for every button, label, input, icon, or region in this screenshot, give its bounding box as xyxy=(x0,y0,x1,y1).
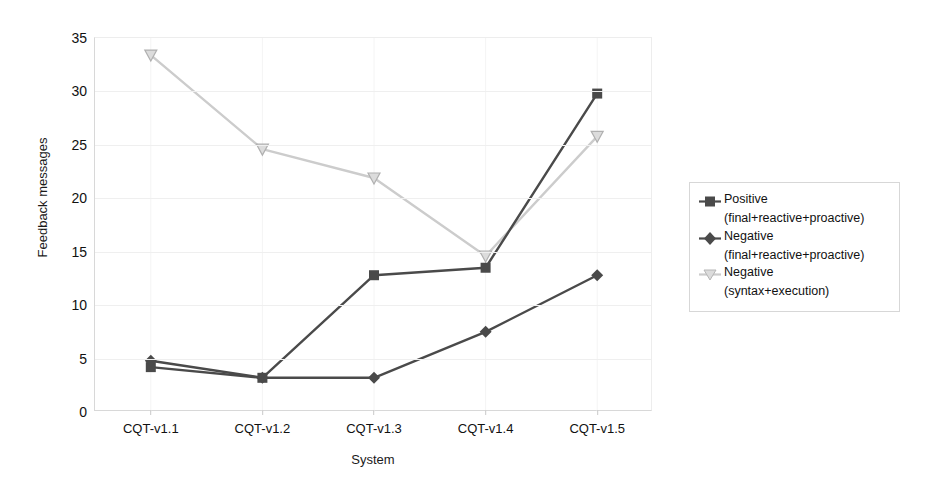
gridline xyxy=(95,305,651,306)
legend-label-negative-syntax: Negative xyxy=(724,265,773,281)
data-point-marker[interactable] xyxy=(591,269,603,281)
y-tick-label: 5 xyxy=(79,351,87,367)
data-point-marker[interactable] xyxy=(480,326,492,338)
legend-label-negative-syntax-sub: (syntax+execution) xyxy=(724,284,891,300)
x-tick-mark xyxy=(374,410,375,415)
y-tick-label: 35 xyxy=(71,30,87,46)
data-point-marker[interactable] xyxy=(368,372,380,384)
legend-item-negative-frp[interactable]: Negative xyxy=(699,229,891,247)
x-tick-label: CQT-v1.2 xyxy=(235,421,291,436)
legend-marker-square-icon xyxy=(699,193,721,210)
y-tick-label: 20 xyxy=(71,190,87,206)
x-tick-mark xyxy=(150,410,151,415)
legend-item-positive[interactable]: Positive xyxy=(699,192,891,210)
line-chart-figure: Feedback messages 05101520253035CQT-v1.1… xyxy=(0,0,935,482)
legend-item-negative-syntax[interactable]: Negative xyxy=(699,265,891,283)
legend-label-positive-sub: (final+reactive+proactive) xyxy=(724,211,891,227)
x-tick: CQT-v1.4 xyxy=(458,410,514,436)
x-tick: CQT-v1.3 xyxy=(346,410,402,436)
chart-legend: Positive (final+reactive+proactive) Nega… xyxy=(689,182,900,312)
y-axis-title: Feedback messages xyxy=(35,98,50,298)
x-tick-mark xyxy=(597,410,598,415)
series-layer xyxy=(95,38,653,412)
x-tick-mark xyxy=(262,410,263,415)
legend-marker-diamond-icon xyxy=(699,230,721,247)
y-tick-label: 10 xyxy=(71,297,87,313)
x-tick-mark xyxy=(485,410,486,415)
x-tick: CQT-v1.1 xyxy=(123,410,179,436)
y-tick-label: 0 xyxy=(79,404,87,420)
legend-label-positive: Positive xyxy=(724,192,768,208)
gridline xyxy=(95,359,651,360)
x-tick: CQT-v1.2 xyxy=(235,410,291,436)
x-tick-label: CQT-v1.5 xyxy=(569,421,625,436)
y-tick-label: 30 xyxy=(71,83,87,99)
x-tick-label: CQT-v1.1 xyxy=(123,421,179,436)
x-tick-label: CQT-v1.4 xyxy=(458,421,514,436)
legend-label-negative-frp-sub: (final+reactive+proactive) xyxy=(724,248,891,264)
legend-label-negative-frp: Negative xyxy=(724,229,773,245)
gridline xyxy=(95,252,651,253)
y-tick-label: 25 xyxy=(71,137,87,153)
data-point-marker[interactable] xyxy=(592,89,602,99)
x-tick: CQT-v1.5 xyxy=(569,410,625,436)
x-axis-title: System xyxy=(94,452,652,467)
gridline xyxy=(95,145,651,146)
gridline xyxy=(95,91,651,92)
legend-marker-triangle-down-icon xyxy=(699,266,721,283)
gridline xyxy=(95,198,651,199)
x-tick-label: CQT-v1.3 xyxy=(346,421,402,436)
data-point-marker[interactable] xyxy=(481,263,491,273)
plot-area: 05101520253035CQT-v1.1CQT-v1.2CQT-v1.3CQ… xyxy=(94,37,652,411)
data-point-marker[interactable] xyxy=(369,270,379,280)
y-tick-label: 15 xyxy=(71,244,87,260)
